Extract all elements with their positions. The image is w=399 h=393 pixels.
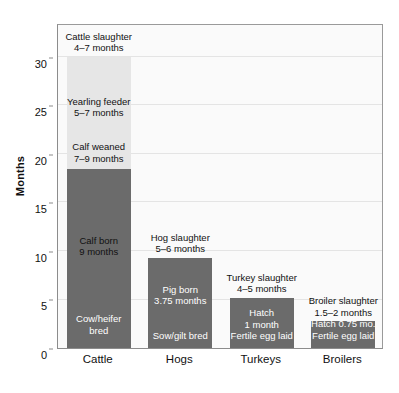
x-axis-labels: CattleHogsTurkeysBroilers <box>57 353 383 377</box>
bar-segment <box>67 57 131 169</box>
bar-segment <box>67 169 131 348</box>
y-tick-mark <box>49 251 53 252</box>
bar-hogs[interactable]: Hog slaughter5–6 monthsPig born3.75 mont… <box>148 23 212 348</box>
y-tick-mark <box>49 106 53 107</box>
y-tick-mark <box>49 57 53 58</box>
bar-cattle[interactable]: Cattle slaughter4–7 monthsYearling feede… <box>67 23 131 348</box>
y-axis-ticks: 051015202530 <box>0 24 53 349</box>
x-label-cattle: Cattle <box>83 353 113 365</box>
bar-segment <box>148 258 212 348</box>
bar-segment <box>311 321 375 348</box>
y-tick-mark <box>49 154 53 155</box>
x-label-broilers: Broilers <box>323 353 362 365</box>
y-tick-mark <box>49 300 53 301</box>
y-tick-mark <box>49 203 53 204</box>
plot-inner: Cattle slaughter4–7 monthsYearling feede… <box>58 25 382 348</box>
y-tick-mark <box>49 349 53 350</box>
bar-broilers[interactable]: Broiler slaughter1.5–2 monthsHatch 0.75 … <box>311 23 375 348</box>
x-label-hogs: Hogs <box>166 353 193 365</box>
x-label-turkeys: Turkeys <box>241 353 281 365</box>
bar-segment <box>230 298 294 348</box>
bar-chart: Months 051015202530 Cattle slaughter4–7 … <box>0 0 399 393</box>
plot-area: Cattle slaughter4–7 monthsYearling feede… <box>57 24 383 349</box>
bar-turkeys[interactable]: Turkey slaughter4–5 monthsHatch1 monthFe… <box>230 23 294 348</box>
